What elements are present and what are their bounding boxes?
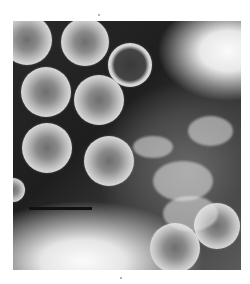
debris [163, 196, 218, 231]
virus-particle [74, 75, 124, 125]
virus-particle [61, 21, 109, 66]
debris [133, 136, 173, 158]
virus-particle [13, 178, 25, 202]
scale-bar [29, 207, 92, 210]
debris [153, 161, 213, 201]
virus-particle [84, 136, 134, 186]
artifact-dot [120, 277, 122, 279]
virus-particle [22, 123, 72, 173]
debris [188, 116, 233, 146]
virus-particle [21, 67, 71, 117]
micrograph [13, 21, 241, 270]
artifact-dot [98, 14, 100, 16]
virus-particle [13, 21, 52, 65]
